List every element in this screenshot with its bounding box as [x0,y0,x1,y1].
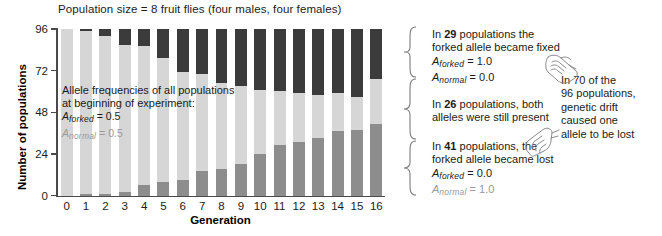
x-axis-tick-label: 14 [331,200,344,212]
bar-segment-fixed [119,29,131,45]
bar-segment-fixed [80,29,92,31]
bar-segment-fixed [312,29,324,95]
bar-segment-lost [216,169,228,195]
bar-segment-both [351,97,363,130]
bar-segment-lost [80,194,92,196]
x-axis-tick-label: 12 [293,200,306,212]
bar-segment-both [235,86,247,164]
allele-subscript-forked-fixed: forked [439,59,464,69]
bar-segment-both [370,79,382,124]
initial-frequency-note-line1: Allele frequencies of all populations [62,84,234,97]
initial-frequency-note-line2: at beginning of experiment: [62,97,234,110]
allele-symbol-forked: A [62,110,69,122]
annotation-lost-forked-value: = 0.0 [467,167,492,179]
x-axis-tick-label: 7 [199,200,205,212]
y-axis-title: Number of populations [16,64,28,190]
x-axis-tick-label: 9 [238,200,244,212]
bar-segment-lost [351,130,363,196]
pointing-hand-icon-top [542,52,582,86]
bar-segment-fixed [254,29,266,90]
x-axis-tick-label: 15 [351,200,364,212]
annotation-fixed-pre: In [432,28,444,40]
bar-segment-fixed [351,29,363,97]
brace-both [386,78,432,140]
bar-segment-fixed [370,29,382,79]
initial-normal-value: = 0.5 [99,127,123,139]
allele-subscript-normal-fixed: normal [439,75,466,85]
y-axis-line [56,28,58,197]
annotation-both-count: 26 [444,98,456,110]
annotation-lost-forked: Aforked = 0.0 [432,167,554,183]
y-axis-tick [51,195,56,197]
brace-lost [386,140,432,196]
bar-segment-lost [119,192,131,195]
annotation-lost-count: 41 [444,140,456,152]
bar-segment-fixed [293,29,305,93]
bar-segment-fixed [196,29,208,74]
y-axis-tick-label: 72 [35,65,48,77]
bar-segment-both [312,95,324,138]
bar-segment-both [254,90,266,154]
y-axis-tick [51,153,56,155]
bar-segment-lost [196,171,208,195]
x-axis-tick-label: 1 [83,200,89,212]
bar-segment-fixed [99,29,111,36]
y-axis-tick-label: 96 [35,23,48,35]
allele-subscript-normal: normal [69,131,96,141]
bar-segment-fixed [177,29,189,72]
annotation-fixed-count: 29 [444,28,456,40]
annotation-drift-line5: allele to be lost [561,128,636,141]
annotation-fixed: In 29 populations the forked allele beca… [432,28,560,88]
x-axis-line [56,196,385,198]
x-axis-tick-label: 11 [274,200,286,212]
bar-segment-both [293,93,305,142]
bar-segment-lost [312,138,324,195]
bar-segment-lost [370,124,382,195]
x-axis-tick-label: 5 [160,200,166,212]
x-axis-tick-label: 4 [141,200,147,212]
figure-title: Population size = 8 fruit flies (four ma… [58,3,342,15]
x-axis-tick-label: 6 [180,200,186,212]
allele-subscript-normal-lost: normal [439,187,466,197]
bar-segment-fixed [332,29,344,93]
bar-segment-lost [99,194,111,196]
pointing-hand-icon-bottom [521,127,563,159]
x-axis-tick-label: 2 [102,200,108,212]
annotation-fixed-line1: In 29 populations the [432,28,560,41]
x-axis-title: Generation [56,214,385,226]
allele-subscript-forked: forked [69,114,94,124]
bar-segment-fixed [235,29,247,86]
annotation-both-line2: alleles were still present [432,111,549,124]
figure-root: Population size = 8 fruit flies (four ma… [0,0,662,236]
brace-fixed [386,26,432,78]
bar-segment-lost [235,164,247,195]
x-axis-tick-label: 8 [218,200,224,212]
bar-segment-lost [254,154,266,196]
x-axis-tick-label: 10 [254,200,267,212]
initial-forked-value: = 0.5 [97,110,121,122]
x-axis-tick-label: 13 [312,200,325,212]
allele-subscript-forked-lost: forked [439,171,464,181]
y-axis-tick-label: 24 [35,148,48,160]
y-axis-tick-label: 0 [42,190,48,202]
y-axis-tick-label: 48 [35,106,48,118]
bar-segment-fixed [274,29,286,91]
annotation-lost-normal: Anormal = 1.0 [432,183,554,199]
bar-segment-lost [138,185,150,195]
bar-segment-fixed [216,29,228,83]
annotation-both-pre: In [432,98,444,110]
allele-symbol-normal: A [62,127,69,139]
bar-segment-both [274,91,286,145]
bar-segment-lost [274,145,286,195]
initial-frequency-note: Allele frequencies of all populations at… [62,84,234,143]
annotation-drift-line3: genetic drift [561,101,636,114]
annotation-fixed-forked: Aforked = 1.0 [432,55,560,71]
x-axis-tick-label: 16 [370,200,383,212]
annotation-lost-pre: In [432,140,444,152]
annotation-both-line1: In 26 populations, both [432,98,549,111]
x-axis-tick-label: 3 [122,200,128,212]
bar-segment-fixed [138,29,150,46]
bar-segment-fixed [157,29,169,58]
annotation-fixed-forked-value: = 1.0 [467,55,492,67]
bar-segment-lost [293,142,305,196]
